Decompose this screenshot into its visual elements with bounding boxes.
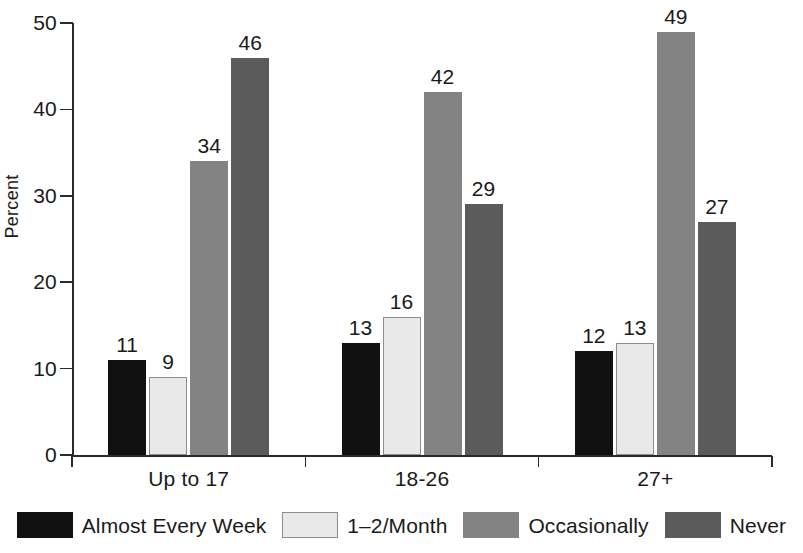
- bar-value-label: 29: [453, 178, 515, 199]
- bar: [424, 92, 462, 455]
- plot-area: 11934461316422912134927: [72, 23, 772, 455]
- x-axis-category-label: 27+: [539, 468, 772, 489]
- legend-item-label: Occasionally: [528, 515, 648, 536]
- bar: [575, 351, 613, 455]
- bar: [616, 343, 654, 455]
- bar-value-label: 42: [412, 66, 474, 87]
- bar: [657, 32, 695, 455]
- bar: [465, 204, 503, 455]
- x-axis-tick: [771, 456, 773, 467]
- y-axis-tick-label: 20: [17, 271, 57, 292]
- bar-value-label: 27: [686, 196, 748, 217]
- bar: [108, 360, 146, 455]
- bar: [383, 317, 421, 455]
- bar: [231, 58, 269, 455]
- bar-value-label: 46: [219, 32, 281, 53]
- legend-item: Never: [665, 512, 787, 538]
- bar: [190, 161, 228, 455]
- legend-swatch-icon: [463, 512, 519, 538]
- x-axis-tick: [71, 456, 73, 467]
- bar: [149, 377, 187, 455]
- y-axis-tick-label: 50: [17, 12, 57, 33]
- y-axis-tick-label: 30: [17, 185, 57, 206]
- y-axis-label: Percent: [2, 117, 23, 297]
- bar-chart: Percent 01020304050 11934461316422912134…: [0, 0, 803, 553]
- legend-item-label: 1–2/Month: [347, 515, 447, 536]
- bar-value-label: 49: [645, 6, 707, 27]
- y-axis-tick-label: 40: [17, 98, 57, 119]
- x-axis-category-label: 18-26: [305, 468, 538, 489]
- x-axis-line: [72, 455, 772, 457]
- y-axis-tick-label: 0: [17, 444, 57, 465]
- legend-swatch-icon: [282, 512, 338, 538]
- legend-item-label: Never: [730, 515, 787, 536]
- bar: [698, 222, 736, 455]
- x-axis-category-label: Up to 17: [72, 468, 305, 489]
- legend-item: 1–2/Month: [282, 512, 447, 538]
- legend-swatch-icon: [17, 512, 73, 538]
- y-axis-tick-label: 10: [17, 358, 57, 379]
- x-axis-tick: [538, 456, 540, 467]
- legend-item-label: Almost Every Week: [82, 515, 267, 536]
- legend-item: Occasionally: [463, 512, 648, 538]
- bar: [342, 343, 380, 455]
- legend-swatch-icon: [665, 512, 721, 538]
- legend-item: Almost Every Week: [17, 512, 267, 538]
- x-axis-tick: [305, 456, 307, 467]
- chart-legend: Almost Every Week1–2/MonthOccasionallyNe…: [0, 505, 803, 545]
